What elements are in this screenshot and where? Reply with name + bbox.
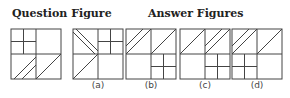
answer-figure-a[interactable] xyxy=(72,28,124,80)
answer-figure-d[interactable] xyxy=(231,28,283,80)
answer-label-b: (b) xyxy=(126,80,176,90)
answer-label-a: (a) xyxy=(73,80,123,90)
answer-figure-b[interactable] xyxy=(125,28,177,80)
question-figure xyxy=(10,28,62,80)
answer-label-c: (c) xyxy=(180,80,230,90)
answer-figure-c[interactable] xyxy=(179,28,231,80)
answer-label-d: (d) xyxy=(232,80,282,90)
question-figure-heading: Question Figure xyxy=(12,7,112,20)
answer-figures-heading: Answer Figures xyxy=(148,7,243,20)
